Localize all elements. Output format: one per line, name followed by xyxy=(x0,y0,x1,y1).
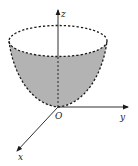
x-axis xyxy=(17,107,58,151)
y-axis-label: y xyxy=(119,112,126,122)
x-axis-label: x xyxy=(18,152,23,162)
paraboloid-diagram: z y x O xyxy=(0,0,138,166)
origin-label: O xyxy=(55,111,63,121)
z-axis-label: z xyxy=(60,9,66,19)
